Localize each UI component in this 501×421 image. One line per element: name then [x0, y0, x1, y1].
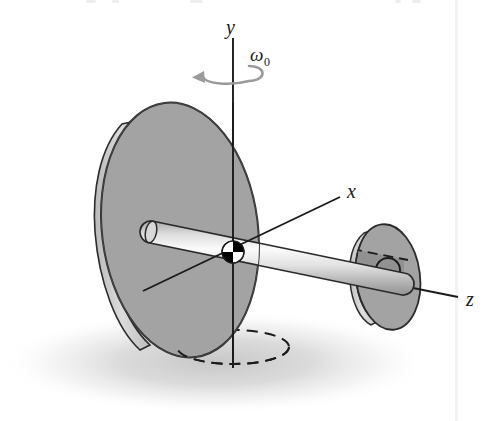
x-axis-label: x — [346, 180, 356, 202]
z-axis-label: z — [465, 288, 474, 310]
rotation-arrow-omega — [192, 66, 263, 84]
scan-line-artifact — [455, 0, 458, 421]
figure-canvas: y x z ω 0 — [0, 0, 501, 421]
center-of-mass-marker — [222, 241, 244, 263]
y-axis-label: y — [224, 16, 235, 39]
physics-figure-disk-shaft: y x z ω 0 — [0, 0, 501, 421]
omega-subscript: 0 — [264, 55, 270, 69]
top-text-remnants — [86, 0, 421, 3]
omega-symbol: ω — [250, 44, 263, 65]
